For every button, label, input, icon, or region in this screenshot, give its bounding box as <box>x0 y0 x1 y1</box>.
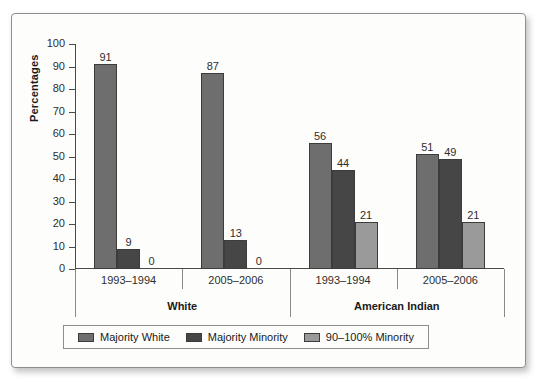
y-tick-label: 30 <box>53 195 65 207</box>
axis-divider <box>75 269 76 317</box>
y-tick-label: 90 <box>53 60 65 72</box>
category-label: 2005–2006 <box>182 274 289 286</box>
axis-divider <box>182 269 183 289</box>
y-tick-label: 40 <box>53 172 65 184</box>
y-tick-label: 80 <box>53 82 65 94</box>
bar: 51 <box>416 154 439 269</box>
bar-value-label: 13 <box>230 227 242 239</box>
chart-legend: Majority WhiteMajority Minority90–100% M… <box>63 325 429 349</box>
y-tick-label: 10 <box>53 240 65 252</box>
legend-label: 90–100% Minority <box>326 331 414 343</box>
bar-value-label: 87 <box>207 60 219 72</box>
category-label: 2005–2006 <box>397 274 504 286</box>
category-label: 1993–1994 <box>290 274 397 286</box>
bar: 9 <box>117 249 140 269</box>
axis-divider <box>290 269 291 317</box>
legend-swatch-majority-minority <box>186 333 202 342</box>
bar: 91 <box>94 64 117 269</box>
bar-value-label: 56 <box>314 130 326 142</box>
axis-divider <box>397 269 398 289</box>
bar-value-label: 44 <box>337 157 349 169</box>
legend-item: 90–100% Minority <box>304 331 414 343</box>
y-tick-label: 50 <box>53 150 65 162</box>
y-tick-label: 100 <box>47 37 65 49</box>
y-tick-label: 0 <box>59 262 65 274</box>
bar-value-label: 9 <box>126 236 132 248</box>
chart-card: Percentages 1009080706050403020100 91908… <box>11 13 526 368</box>
bar-value-label: 21 <box>467 209 479 221</box>
bar: 21 <box>462 222 485 269</box>
legend-label: Majority Minority <box>208 331 288 343</box>
bar-value-label: 21 <box>360 209 372 221</box>
legend-item: Majority White <box>78 331 170 343</box>
y-tick-label: 70 <box>53 105 65 117</box>
legend-label: Majority White <box>100 331 170 343</box>
category-label: 1993–1994 <box>75 274 182 286</box>
y-tick-label: 20 <box>53 217 65 229</box>
bar-value-label: 51 <box>421 141 433 153</box>
bar: 21 <box>355 222 378 269</box>
axis-divider <box>504 269 505 317</box>
y-tick-label: 60 <box>53 127 65 139</box>
bars-layer: 919087130564421514921 <box>75 44 504 269</box>
bar: 13 <box>224 240 247 269</box>
bar: 56 <box>309 143 332 269</box>
bar-value-label: 0 <box>256 255 262 267</box>
bar-value-label: 91 <box>100 51 112 63</box>
group-label: American Indian <box>290 300 505 312</box>
bar-value-label: 0 <box>149 255 155 267</box>
legend-item: Majority Minority <box>186 331 288 343</box>
legend-swatch-majority-white <box>78 333 94 342</box>
group-label: White <box>75 300 290 312</box>
bar: 44 <box>332 170 355 269</box>
bar: 87 <box>201 73 224 269</box>
plot-area: Percentages 1009080706050403020100 91908… <box>12 14 525 367</box>
bar-value-label: 49 <box>444 146 456 158</box>
legend-swatch-90-100-minority <box>304 333 320 342</box>
bar: 49 <box>439 159 462 269</box>
y-axis-title: Percentages <box>28 54 40 122</box>
